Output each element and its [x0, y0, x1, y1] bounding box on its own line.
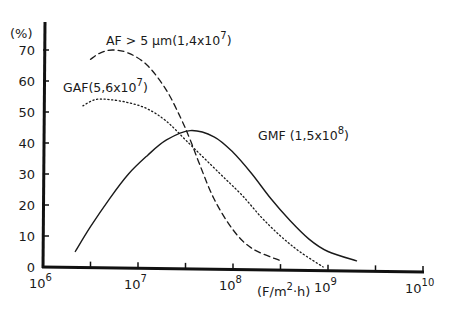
y-tick-label: 30 [18, 167, 35, 182]
series-gaf-line [83, 99, 323, 267]
y-axis-line [43, 22, 45, 268]
y-tick-label: 60 [18, 74, 35, 89]
y-tick-label: 0 [27, 260, 35, 275]
x-axis-unit: (F/m2·h) [257, 281, 310, 299]
y-axis-unit: (%) [10, 26, 33, 41]
y-tick-label: 70 [18, 43, 35, 58]
x-tick-label: 109 [314, 276, 337, 295]
axes: 010203040506070(%)1061071081091010(F/m2·… [10, 22, 434, 299]
y-tick-label: 10 [18, 229, 35, 244]
y-tick-label: 40 [18, 136, 35, 151]
y-tick-label: 20 [18, 198, 35, 213]
x-tick-label: 1010 [405, 277, 434, 296]
label-gmf: GMF (1,5x108) [258, 125, 349, 143]
x-tick-label: 107 [124, 273, 147, 292]
label-af-5um: AF > 5 µm(1,4x107) [106, 30, 232, 48]
labels-group: AF > 5 µm(1,4x107)GAF(5,6x107)GMF (1,5x1… [63, 30, 349, 143]
series-gmf-line [75, 131, 356, 261]
y-tick-label: 50 [18, 105, 35, 120]
chart: 010203040506070(%)1061071081091010(F/m2·… [0, 0, 458, 311]
x-tick-label: 108 [219, 274, 242, 293]
label-gaf: GAF(5,6x107) [63, 77, 148, 95]
